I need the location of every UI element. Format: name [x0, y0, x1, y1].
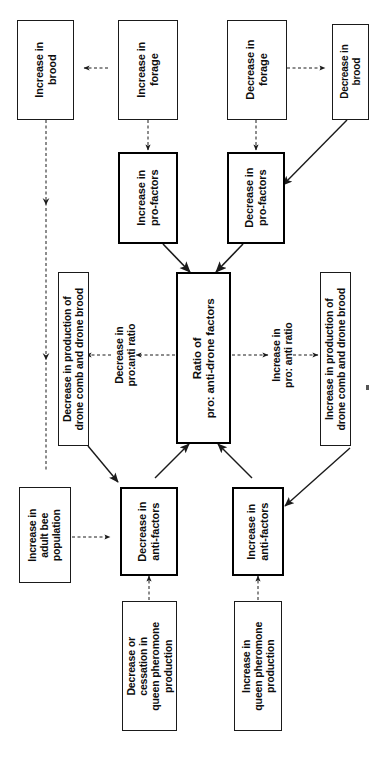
node-increase-queen-pheromone-label: Increase in queen pheromone production — [240, 622, 277, 711]
node-decrease-production[interactable]: Decrease in production of drone comb and… — [58, 272, 89, 446]
node-increase-brood[interactable]: Increase in brood — [17, 20, 74, 120]
node-increase-brood-label: Increase in brood — [33, 42, 59, 98]
node-increase-adult-bees[interactable]: Increase in adult bee population — [19, 487, 71, 583]
diagram-canvas: Increase in brood Increase in forage Dec… — [0, 0, 381, 761]
node-increase-forage[interactable]: Increase in forage — [118, 20, 178, 120]
node-decrease-pro-factors[interactable]: Decrease in pro-factors — [227, 152, 285, 244]
node-increase-production[interactable]: Increase in production of drone comb and… — [320, 272, 351, 446]
node-ratio[interactable]: Ratio of pro: anti-drone factors — [176, 272, 231, 444]
node-increase-queen-pheromone[interactable]: Increase in queen pheromone production — [234, 601, 282, 731]
node-increase-pro-factors[interactable]: Increase in pro-factors — [118, 152, 178, 244]
node-decrease-queen-pheromone[interactable]: Decrease or cessation in queen pheromone… — [122, 601, 177, 731]
edge-label-decrease-ratio: Decrease in pro:anti ratio — [105, 290, 145, 420]
edge-arrowhead-mid-2 — [43, 353, 50, 360]
node-increase-anti-factors[interactable]: Increase in anti-factors — [232, 487, 284, 576]
edge-inc-pro-to-ratio — [163, 244, 190, 272]
node-ratio-label: Ratio of pro: anti-drone factors — [190, 298, 217, 418]
edge-inc-anti-to-ratio — [218, 444, 252, 478]
edge-label-increase-ratio: Increase in pro: anti ratio — [262, 290, 302, 420]
node-decrease-brood[interactable]: Decrease in brood — [332, 24, 369, 120]
node-decrease-queen-pheromone-label: Decrease or cessation in queen pheromone… — [125, 622, 174, 711]
node-decrease-anti-factors-label: Decrease in anti-factors — [136, 501, 162, 561]
edge-label-decrease-ratio-text: Decrease in pro:anti ratio — [113, 324, 137, 387]
node-increase-production-label: Increase in production of drone comb and… — [323, 288, 347, 431]
scan-speck — [366, 385, 369, 390]
edge-label-increase-ratio-text: Increase in pro: anti ratio — [270, 322, 294, 387]
node-increase-anti-factors-label: Increase in anti-factors — [245, 502, 271, 560]
node-increase-forage-label: Increase in forage — [135, 42, 161, 98]
node-decrease-pro-factors-label: Decrease in pro-factors — [243, 168, 269, 228]
edge-dec-anti-to-ratio — [155, 444, 189, 478]
edge-dec-brood-to-dec-pro — [283, 120, 347, 185]
edge-dec-production-to-dec-anti — [88, 446, 118, 482]
edge-dec-brood-to-inc-anti — [285, 448, 350, 506]
node-decrease-forage-label: Decrease in forage — [244, 40, 270, 100]
node-decrease-production-label: Decrease in production of drone comb and… — [61, 288, 85, 431]
node-decrease-brood-label: Decrease in brood — [339, 45, 362, 100]
edge-dec-pro-to-ratio — [216, 244, 243, 272]
node-increase-pro-factors-label: Increase in pro-factors — [135, 170, 161, 226]
node-increase-adult-bees-label: Increase in adult bee population — [27, 508, 64, 561]
node-decrease-anti-factors[interactable]: Decrease in anti-factors — [120, 487, 178, 576]
node-decrease-forage[interactable]: Decrease in forage — [227, 20, 287, 120]
